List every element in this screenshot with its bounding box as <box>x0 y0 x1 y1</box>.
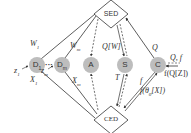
label-t: T <box>115 74 119 82</box>
label-qf: Q, f <box>170 54 182 62</box>
label-ftheta: f(θ0[X]) <box>140 87 165 97</box>
label-w1-text: W <box>30 39 37 48</box>
node-dm-label: Dm <box>55 61 69 71</box>
ced-label: CED <box>101 116 121 123</box>
label-ftheta-tail: [X]) <box>151 86 165 95</box>
label-f: f <box>140 77 142 85</box>
label-z1: z1 <box>14 67 20 77</box>
label-xm: Xm <box>72 77 81 87</box>
label-fqz: f(Q[Z]) <box>164 70 188 78</box>
node-s-label: S <box>118 61 132 69</box>
node-c-label: C <box>151 61 165 69</box>
edge-sed-s-1 <box>117 25 124 56</box>
label-x1-sub: 1 <box>35 81 38 86</box>
edge-dm-ced <box>65 72 97 114</box>
label-q: Q <box>152 44 158 52</box>
sed-label: SED <box>101 10 121 17</box>
label-z1-sub: 1 <box>17 72 20 77</box>
edge-ced-a <box>91 74 98 110</box>
edge-sed-dm <box>65 16 96 58</box>
edge-c-sed <box>126 18 154 58</box>
edge-z1-d1 <box>22 66 28 69</box>
label-w1-sub: 1 <box>37 45 40 50</box>
label-w1: W1 <box>30 40 39 50</box>
edge-sed-d1 <box>41 14 95 59</box>
label-zm: zm <box>41 67 48 77</box>
label-x1: X1 <box>30 76 37 86</box>
label-wm: Wm <box>70 42 80 52</box>
node-dm-sub: m <box>63 65 67 71</box>
node-a-label: A <box>84 61 98 69</box>
label-wm-sub: m <box>77 47 81 52</box>
label-qw: Q[W] <box>102 43 121 51</box>
label-wm-text: W <box>70 41 77 50</box>
label-zm-sub: m <box>44 72 48 77</box>
label-xm-sub: m <box>77 82 81 87</box>
edge-d1-ced <box>41 71 95 118</box>
edge-sed-a <box>91 19 98 56</box>
label-ftheta-text: f(θ <box>140 86 149 95</box>
edge-sed-s-2 <box>120 24 127 56</box>
